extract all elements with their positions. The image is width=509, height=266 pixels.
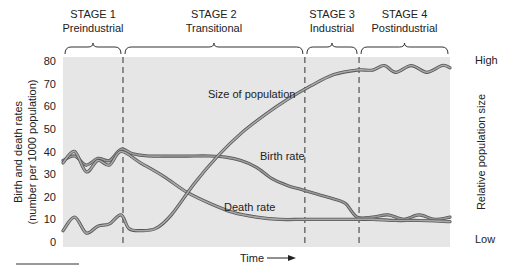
- y-axis-sublabel: (number per 1000 population): [26, 80, 38, 225]
- stage-headers: STAGE 1PreindustrialSTAGE 2TransitionalS…: [62, 8, 448, 54]
- y-tick-label: 0: [50, 236, 56, 248]
- y-axis-ticks: 01020304050607080: [44, 55, 56, 248]
- y-tick-label: 60: [44, 100, 56, 112]
- stage-brace: [361, 43, 448, 54]
- stage-brace: [65, 43, 121, 54]
- y2-low-label: Low: [475, 233, 495, 245]
- stage-name: Industrial: [310, 22, 355, 34]
- stage-title: STAGE 1: [70, 8, 116, 20]
- stage-title: STAGE 2: [191, 8, 237, 20]
- stage-title: STAGE 4: [382, 8, 428, 20]
- y-tick-label: 40: [44, 146, 56, 158]
- stage-name: Postindustrial: [372, 22, 438, 34]
- x-axis-label: Time: [240, 252, 264, 264]
- y-axis-label: Birth and death rates: [12, 100, 24, 203]
- stage-brace: [307, 43, 357, 54]
- y-tick-label: 10: [44, 213, 56, 225]
- label-birth-rate: Birth rate: [260, 150, 305, 162]
- label-death-rate: Death rate: [224, 201, 275, 213]
- y-tick-label: 50: [44, 123, 56, 135]
- y2-axis-label: Relative population size: [475, 94, 487, 210]
- demographic-transition-chart: STAGE 1PreindustrialSTAGE 2TransitionalS…: [0, 0, 509, 266]
- y-tick-label: 20: [44, 191, 56, 203]
- y2-high-label: High: [475, 54, 498, 66]
- stage-name: Preindustrial: [62, 22, 123, 34]
- y-tick-label: 80: [44, 55, 56, 67]
- label-size-of-population: Size of population: [208, 88, 295, 100]
- stage-title: STAGE 3: [309, 8, 355, 20]
- x-axis-label-group: Time: [240, 252, 296, 264]
- time-arrow-head: [288, 255, 296, 261]
- stage-name: Transitional: [186, 22, 242, 34]
- y-tick-label: 30: [44, 168, 56, 180]
- y-tick-label: 70: [44, 78, 56, 90]
- stage-brace: [125, 43, 303, 54]
